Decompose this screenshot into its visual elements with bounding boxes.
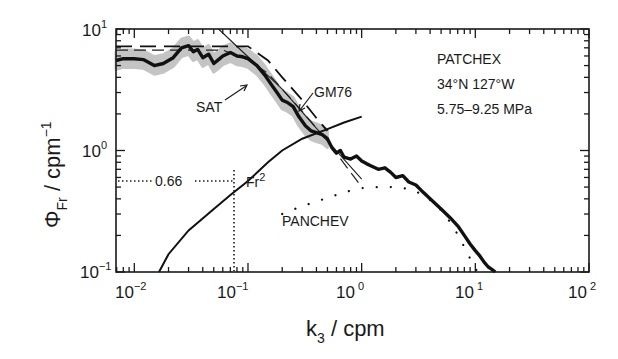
hline-value-label: 0.66 bbox=[155, 173, 182, 189]
info-line-3: 5.75–9.25 MPa bbox=[437, 101, 532, 117]
x-tick-label: 10−1 bbox=[217, 280, 248, 302]
y-tick-label: 100 bbox=[82, 139, 107, 161]
x-axis-label: k3 / cpm bbox=[306, 316, 385, 346]
x-tick-label: 101 bbox=[455, 280, 483, 302]
y-axis-label: ΦFr / cpm−1 bbox=[38, 121, 70, 228]
gm76-arrow bbox=[300, 93, 313, 110]
x-tick-label: 102 bbox=[568, 280, 596, 302]
sat-label: SAT bbox=[196, 99, 223, 115]
y-tick-labels: 10−1 100 101 bbox=[80, 18, 111, 282]
panchev-label: PANCHEV bbox=[282, 213, 349, 229]
series-fr2 bbox=[159, 117, 362, 272]
y-tick-label: 10−1 bbox=[80, 260, 111, 282]
series-panchev bbox=[282, 187, 478, 272]
info-line-1: PATCHEX bbox=[437, 51, 502, 67]
axis-ticks bbox=[116, 29, 589, 272]
spectrum-chart: 10−2 10−1 100 101 102 10−1 100 101 k3 / … bbox=[0, 0, 618, 359]
y-tick-label: 101 bbox=[82, 18, 107, 40]
plot-frame bbox=[116, 29, 589, 272]
sat-arrow bbox=[225, 86, 246, 100]
x-tick-label: 100 bbox=[336, 280, 364, 302]
info-line-2: 34°N 127°W bbox=[437, 76, 515, 92]
gm76-label: GM76 bbox=[314, 84, 352, 100]
x-tick-label: 10−2 bbox=[115, 280, 146, 302]
fr2-label: Fr2 bbox=[246, 171, 265, 190]
info-block: PATCHEX 34°N 127°W 5.75–9.25 MPa bbox=[437, 51, 532, 117]
x-tick-labels: 10−2 10−1 100 101 102 bbox=[115, 280, 596, 302]
